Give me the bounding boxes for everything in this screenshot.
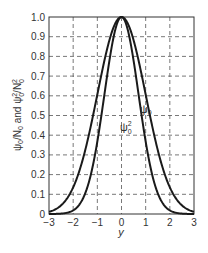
y-tick-label: 0.4 — [31, 130, 45, 141]
y-axis-label: ψ0/N0 and ψ20/N20 — [11, 79, 25, 151]
psi0-squared-label: ψ20 — [120, 120, 132, 135]
x-tick-label: 3 — [191, 217, 197, 228]
y-tick-label: 0.6 — [31, 90, 45, 101]
y-tick-label: 1.0 — [31, 12, 45, 23]
y-tick-label: 0.7 — [31, 71, 45, 82]
y-tick-label: 0.8 — [31, 51, 45, 62]
x-tick-label: −3 — [43, 217, 55, 228]
y-tick-label: 0.3 — [31, 149, 45, 160]
psi0-label: ψ0 — [140, 103, 152, 116]
y-tick-label: 0.1 — [31, 189, 45, 200]
y-axis-ticks: 00.10.20.30.40.50.60.70.80.91.0 — [31, 12, 45, 220]
y-tick-label: 0.2 — [31, 169, 45, 180]
y-tick-label: 0.5 — [31, 110, 45, 121]
grid-lines — [49, 17, 194, 214]
x-tick-label: −1 — [92, 217, 104, 228]
x-tick-label: 1 — [143, 217, 149, 228]
y-tick-label: 0.9 — [31, 31, 45, 42]
chart-figure: 00.10.20.30.40.50.60.70.80.91.0 −3−2−101… — [0, 0, 208, 253]
x-tick-label: 2 — [167, 217, 173, 228]
x-tick-label: −2 — [67, 217, 79, 228]
